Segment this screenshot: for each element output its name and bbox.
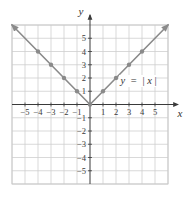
absolute-value-graph: −5−4−3−2−11234554321−1−2−3−4−5 y x y = |… bbox=[0, 0, 184, 198]
x-axis-title: x bbox=[177, 107, 183, 119]
equation-rhs-var: x bbox=[146, 75, 152, 86]
y-axis-title: y bbox=[78, 5, 84, 17]
equation-equals: = bbox=[131, 75, 137, 86]
data-point bbox=[114, 76, 118, 80]
data-point bbox=[36, 49, 40, 53]
x-tick-label: 5 bbox=[153, 107, 157, 117]
y-tick-label: 2 bbox=[82, 73, 86, 83]
y-tick-label: 3 bbox=[82, 60, 86, 70]
equation-abs-close: | bbox=[154, 75, 156, 86]
data-point bbox=[75, 89, 79, 93]
equation-lhs: y bbox=[120, 75, 126, 86]
data-point bbox=[101, 89, 105, 93]
y-tick-label: −2 bbox=[77, 126, 86, 136]
data-point bbox=[62, 76, 66, 80]
y-tick-label: 5 bbox=[82, 33, 86, 43]
chart-canvas: −5−4−3−2−11234554321−1−2−3−4−5 y x y = |… bbox=[0, 0, 184, 198]
x-tick-label: 2 bbox=[114, 107, 118, 117]
y-tick-label: −4 bbox=[77, 153, 87, 163]
x-tick-label: 1 bbox=[101, 107, 105, 117]
equation-label: y = | x | bbox=[120, 75, 157, 86]
data-point bbox=[127, 63, 131, 67]
y-tick-label: 1 bbox=[82, 86, 86, 96]
y-tick-label: −3 bbox=[77, 139, 86, 149]
x-tick-label: 4 bbox=[140, 107, 145, 117]
y-tick-label: −5 bbox=[77, 166, 86, 176]
data-point bbox=[49, 63, 53, 67]
y-tick-label: −1 bbox=[77, 113, 86, 123]
x-tick-label: 3 bbox=[127, 107, 131, 117]
equation-abs-open: | bbox=[142, 75, 144, 86]
x-tick-label: −4 bbox=[33, 107, 43, 117]
x-tick-label: −2 bbox=[59, 107, 68, 117]
data-point bbox=[88, 102, 92, 106]
data-point bbox=[140, 49, 144, 53]
x-tick-label: −5 bbox=[20, 107, 29, 117]
x-tick-label: −3 bbox=[46, 107, 55, 117]
